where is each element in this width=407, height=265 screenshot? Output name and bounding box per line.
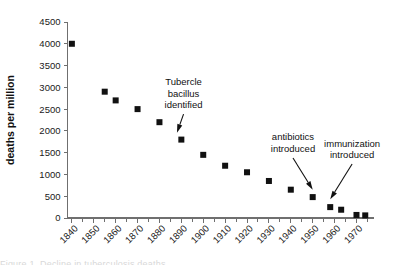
data-point-marker	[338, 207, 344, 213]
data-point-marker	[113, 97, 119, 103]
x-tick-label: 1870	[123, 223, 146, 246]
data-point-marker	[135, 106, 141, 112]
y-tick-label: 2500	[39, 104, 60, 115]
data-point-marker	[156, 119, 162, 125]
data-point-marker	[310, 194, 316, 200]
annotation-immunization: immunizationintroduced	[324, 138, 380, 200]
annotation-antibiotics-arrow-head	[306, 181, 313, 190]
annotation-immunization-arrow-line	[335, 164, 352, 192]
x-tick-label: 1930	[254, 223, 277, 246]
data-point-series	[69, 41, 368, 219]
y-axis-title: deaths per million	[4, 75, 16, 165]
y-tick-label: 500	[45, 191, 61, 202]
y-tick-label: 3500	[39, 60, 60, 71]
y-axis-ticks: 050010001500200025003000350040004500	[39, 16, 67, 223]
data-point-marker	[288, 187, 294, 193]
x-tick-label: 1970	[342, 223, 365, 246]
annotation-immunization-text: immunizationintroduced	[324, 138, 380, 161]
chart-screenshot: 050010001500200025003000350040004500 184…	[0, 0, 407, 265]
annotation-immunization-arrow-head	[330, 191, 337, 200]
y-axis-title-label: deaths per million	[4, 75, 16, 165]
data-point-marker	[222, 163, 228, 169]
annotation-antibiotics-arrow-line	[293, 158, 308, 182]
y-tick-label: 1500	[39, 147, 60, 158]
x-tick-label: 1880	[145, 223, 168, 246]
x-tick-label: 1920	[232, 223, 255, 246]
y-tick-label: 4500	[39, 16, 60, 27]
x-tick-label: 1840	[57, 223, 80, 246]
x-tick-label: 1950	[298, 223, 321, 246]
y-axis: 050010001500200025003000350040004500	[39, 16, 67, 223]
annotation-antibiotics-text: antibioticsintroduced	[271, 131, 315, 154]
data-point-marker	[266, 178, 272, 184]
y-tick-label: 0	[55, 212, 60, 223]
annotation-tubercle-text: Tuberclebacillusidentified	[165, 76, 203, 110]
x-axis-major-ticks: 1840185018601870188018901900191019201930…	[57, 218, 364, 245]
data-point-marker	[353, 212, 359, 218]
data-point-marker	[69, 41, 75, 47]
data-point-marker	[102, 89, 108, 95]
annotation-tubercle-arrow-head	[177, 124, 182, 133]
x-tick-label: 1890	[167, 223, 190, 246]
x-tick-label: 1900	[188, 223, 211, 246]
data-point-marker	[327, 204, 333, 210]
x-tick-label: 1860	[101, 223, 124, 246]
cropped-figure-caption: Figure 1. Decline in tuberculosis deaths	[0, 259, 407, 265]
annotation-layer: Tuberclebacillusidentifiedantibioticsint…	[165, 76, 381, 199]
data-point-marker	[178, 137, 184, 143]
x-tick-label: 1850	[79, 223, 102, 246]
data-point-marker	[362, 212, 368, 218]
annotation-tubercle: Tuberclebacillusidentified	[165, 76, 203, 132]
y-tick-label: 4000	[39, 38, 60, 49]
y-tick-label: 2000	[39, 125, 60, 136]
chart-canvas: 050010001500200025003000350040004500 184…	[0, 0, 407, 265]
data-point-marker	[244, 169, 250, 175]
annotation-tubercle-arrow-line	[180, 114, 184, 124]
annotation-antibiotics: antibioticsintroduced	[271, 131, 315, 189]
x-axis: 1840185018601870188018901900191019201930…	[57, 218, 374, 245]
data-point-marker	[200, 152, 206, 158]
y-tick-label: 3000	[39, 82, 60, 93]
tuberculosis-deaths-scatter-chart: 050010001500200025003000350040004500 184…	[0, 0, 407, 265]
y-tick-label: 1000	[39, 169, 60, 180]
x-tick-label: 1940	[276, 223, 299, 246]
x-tick-label: 1960	[320, 223, 343, 246]
x-tick-label: 1910	[210, 223, 233, 246]
